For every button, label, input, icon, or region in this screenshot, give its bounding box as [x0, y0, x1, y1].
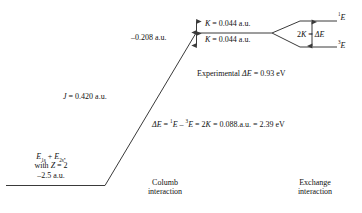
exchange-k-upper-label: K = 0.044 a.u.	[205, 19, 250, 28]
singlet-term-label: 1E	[338, 13, 345, 22]
ground-state-line3: –2.5 a.u.	[8, 171, 94, 180]
delta-equation-label: ΔE = 1E – 3E = 2K = 0.088.a.u. = 2.39 eV	[152, 120, 285, 129]
coulomb-j-label: J = 0.420 a.u.	[63, 92, 107, 101]
ground-state-label: E1s + E2s, with Z = 2 –2.5 a.u.	[8, 152, 94, 180]
splitting-label: 2K = ΔE	[297, 30, 324, 39]
coulomb-rise-line	[105, 33, 196, 186]
experimental-delta-label: Experimental ΔE = 0.93 eV	[197, 69, 286, 78]
exchange-fork-lower-line	[272, 33, 300, 47]
triplet-term-label: 3E	[338, 41, 345, 50]
caption-coulomb-line1: Columb	[130, 178, 200, 187]
ground-state-line2: with Z = 2	[8, 161, 94, 170]
caption-exchange-line1: Exchange	[280, 178, 350, 187]
coulomb-level-value-label: –0.208 a.u.	[131, 33, 167, 42]
ground-state-line1: E1s + E2s,	[8, 152, 94, 161]
energy-level-diagram: E1s + E2s, with Z = 2 –2.5 a.u. –0.208 a…	[0, 0, 362, 213]
caption-exchange-interaction: Exchange interaction	[280, 178, 350, 197]
caption-coulomb-interaction: Columb interaction	[130, 178, 200, 197]
caption-coulomb-line2: interaction	[130, 187, 200, 196]
exchange-k-lower-label: K = 0.044 a.u.	[205, 35, 250, 44]
caption-exchange-line2: interaction	[280, 187, 350, 196]
exchange-fork-upper-line	[272, 21, 300, 33]
